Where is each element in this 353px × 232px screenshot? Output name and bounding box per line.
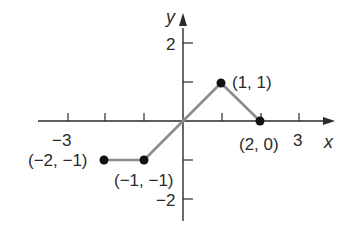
function-graph: −3 3 x 2 −2 y (−2, −1) (−1, −1) (1, 1) (… xyxy=(0,0,353,232)
y-tick-label-neg2: −2 xyxy=(156,191,175,210)
y-tick-label-2: 2 xyxy=(166,35,175,54)
point-neg1-neg1 xyxy=(140,156,149,165)
point-label-neg2-neg1: (−2, −1) xyxy=(28,151,88,170)
x-tick-label-3: 3 xyxy=(293,131,302,150)
point-neg2-neg1 xyxy=(100,156,109,165)
point-label-2-0: (2, 0) xyxy=(239,135,279,154)
point-label-1-1: (1, 1) xyxy=(232,73,272,92)
y-axis-arrow-icon xyxy=(179,13,187,26)
x-tick-label-neg3: −3 xyxy=(52,131,71,150)
point-label-neg1-neg1: (−1, −1) xyxy=(114,171,174,190)
point-1-1 xyxy=(217,79,226,88)
x-axis-label: x xyxy=(323,132,334,152)
x-axis-arrow-icon xyxy=(323,117,335,125)
y-axis-label: y xyxy=(164,7,176,27)
point-2-0 xyxy=(256,117,265,126)
